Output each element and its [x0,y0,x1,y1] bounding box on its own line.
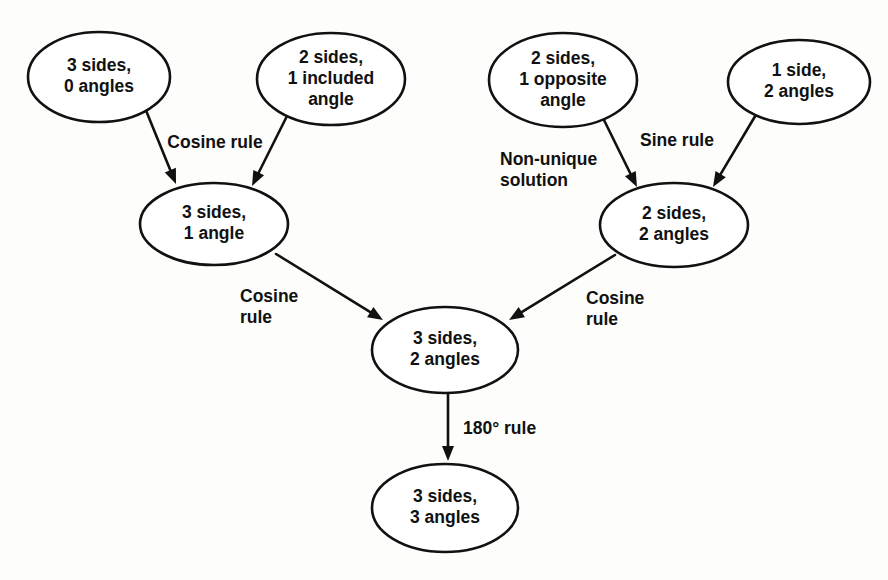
edge-label-line: Sine rule [640,130,714,150]
label-sine-rule: Sine rule [640,130,714,150]
label-cosine-rule-right: Cosinerule [586,288,645,329]
node-three-sides-zero-angles[interactable]: 3 sides,0 angles [28,32,170,122]
label-non-unique-solution: Non-uniquesolution [500,149,597,190]
arrow-head-icon [509,307,525,320]
edges-layer [145,108,757,461]
node-label-line: angle [540,90,586,110]
node-two-sides-one-included-angle[interactable]: 2 sides,1 includedangle [257,33,405,125]
node-label-line: 3 sides, [413,328,477,348]
arrow-head-icon [625,171,637,187]
edge-line [719,113,757,177]
node-one-side-two-angles[interactable]: 1 side,2 angles [728,40,870,124]
node-label-line: 2 sides, [299,47,363,67]
node-label-line: 3 sides, [413,486,477,506]
arrow-head-icon [252,170,264,186]
node-two-sides-two-angles[interactable]: 2 sides,2 angles [600,183,748,267]
node-label-line: 0 angles [64,76,134,96]
edge-edge-non-unique-solution [602,116,637,187]
label-180-rule: 180° rule [463,418,536,438]
edge-label-line: Cosine [240,286,299,306]
node-two-sides-one-opposite-angle[interactable]: 2 sides,1 oppositeangle [489,33,637,127]
node-three-sides-one-angle[interactable]: 3 sides,1 angle [140,183,288,265]
label-cosine-rule-left: Cosinerule [240,286,299,327]
edge-label-line: Non-unique [500,149,597,169]
edge-label-line: Cosine [586,288,645,308]
edge-label-line: 180° rule [463,418,536,438]
edge-label-line: rule [586,309,618,329]
node-label-line: 2 angles [410,349,480,369]
edge-line [602,116,632,176]
node-label-line: 2 sides, [642,203,706,223]
arrow-head-icon [165,168,176,184]
edge-label-line: solution [500,170,568,190]
node-label-line: 3 sides, [182,202,246,222]
node-three-sides-three-angles[interactable]: 3 sides,3 angles [372,464,518,552]
triangle-solving-flow-diagram: 3 sides,0 angles2 sides,1 includedangle2… [0,0,888,580]
edge-label-line: Cosine rule [167,132,263,152]
node-label-line: 1 angle [184,223,245,243]
arrow-head-icon [367,307,383,320]
edge-label-line: rule [240,307,272,327]
node-label-line: 2 sides, [531,48,595,68]
node-label-line: 1 included [288,68,375,88]
node-label-line: 1 opposite [519,69,607,89]
node-label-line: 1 side, [772,60,826,80]
node-label-line: angle [308,89,354,109]
node-label-line: 3 sides, [67,55,131,75]
nodes-layer: 3 sides,0 angles2 sides,1 includedangle2… [28,32,870,552]
arrow-head-icon [713,171,726,187]
node-three-sides-two-angles[interactable]: 3 sides,2 angles [372,307,518,393]
diagram-page: 3 sides,0 angles2 sides,1 includedangle2… [0,0,888,580]
edge-edge-sine-rule [713,113,757,187]
node-label-line: 3 angles [410,507,480,527]
arrow-head-icon [442,446,454,461]
node-label-line: 2 angles [639,224,709,244]
label-cosine-rule-top: Cosine rule [167,132,263,152]
edge-edge-180-rule [442,394,454,461]
node-label-line: 2 angles [764,81,834,101]
